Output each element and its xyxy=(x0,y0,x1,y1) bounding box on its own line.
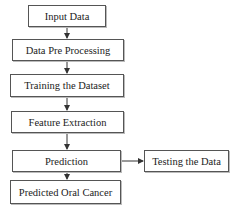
node-feature-extraction: Feature Extraction xyxy=(11,111,124,133)
node-predicted-oral-cancer: Predicted Oral Cancer xyxy=(10,180,121,204)
node-input-data: Input Data xyxy=(28,5,106,27)
node-testing-the-data: Testing the Data xyxy=(144,150,229,172)
node-prediction: Prediction xyxy=(12,150,121,172)
node-data-pre-processing: Data Pre Processing xyxy=(12,39,124,61)
node-training-the-dataset: Training the Dataset xyxy=(10,74,124,97)
